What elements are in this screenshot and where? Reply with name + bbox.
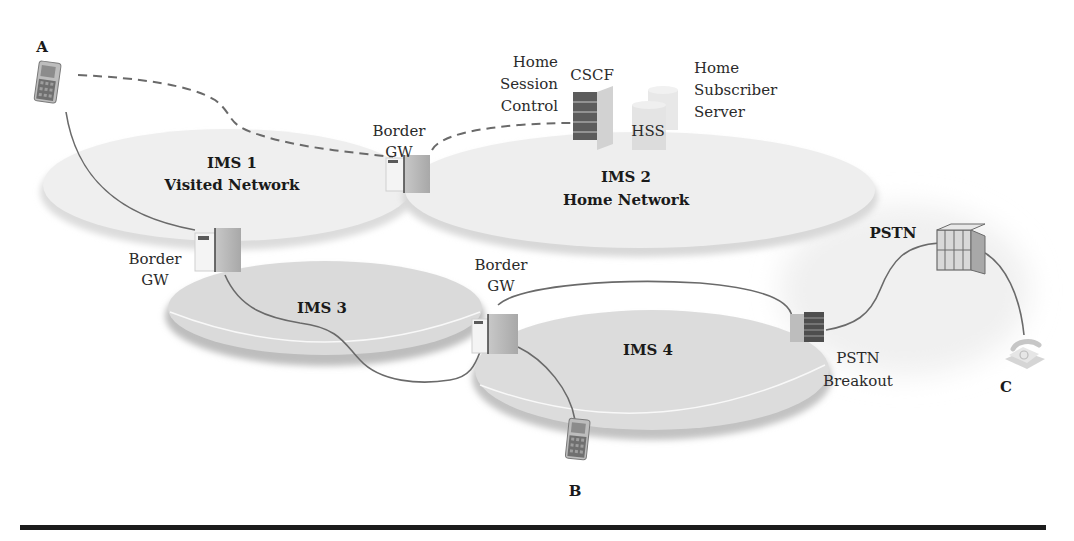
network-ims3-name: IMS 3 [297, 299, 347, 317]
pstn-breakout-label-line1: PSTN [836, 349, 880, 367]
network-ims2-subtitle: Home Network [563, 191, 690, 209]
figure-bottom-rule [20, 525, 1046, 530]
pstn-breakout-icon[interactable] [790, 312, 824, 342]
border-gw-ims3-ims4-icon[interactable] [472, 314, 518, 354]
hss-desc-line1: Home [694, 59, 739, 77]
border-gw-label-line1: Border [373, 122, 427, 140]
border-gw-label-line2: GW [487, 277, 515, 295]
mobile-phone-a-icon[interactable] [34, 61, 61, 104]
hss-desc-line2: Subscriber [694, 81, 778, 99]
network-ims1-subtitle: Visited Network [164, 176, 300, 194]
endpoint-label-b: B [569, 482, 582, 500]
border-gw-label-line1: Border [475, 256, 529, 274]
border-gw-label-line2: GW [141, 271, 169, 289]
cscf-desc-line3: Control [501, 97, 558, 115]
pstn-breakout-label-line2: Breakout [823, 372, 893, 390]
border-gw-label-line1: Border [129, 250, 183, 268]
cscf-desc-line1: Home [513, 53, 558, 71]
border-gw-label-line2: GW [385, 143, 413, 161]
network-ims1-name: IMS 1 [207, 154, 257, 172]
border-gw-ims1-ims3-icon[interactable] [195, 228, 241, 272]
hss-label: HSS [631, 122, 664, 140]
pstn-label: PSTN [870, 224, 917, 242]
cscf-desc-line2: Session [500, 75, 558, 93]
ims-network-diagram: A Border GW Border GW Border GW CSCF Hom… [0, 0, 1074, 541]
network-ims2-name: IMS 2 [601, 168, 651, 186]
mobile-phone-b-icon[interactable] [565, 418, 590, 460]
network-ims4 [472, 310, 832, 440]
hss-desc-line3: Server [694, 103, 746, 121]
landline-phone-c-icon[interactable] [1005, 342, 1045, 369]
network-ims4-name: IMS 4 [623, 341, 673, 359]
cscf-label: CSCF [570, 66, 614, 84]
endpoint-label-a: A [35, 38, 48, 56]
endpoint-label-c: C [1000, 378, 1012, 396]
